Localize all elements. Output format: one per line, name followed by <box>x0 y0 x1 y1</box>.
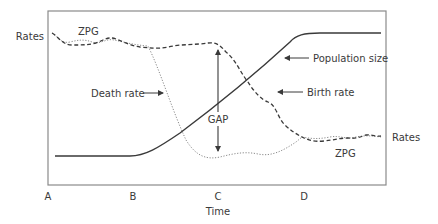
rates-label-right: Rates <box>392 132 420 143</box>
population-size-label: Population size <box>313 53 388 64</box>
axis-tick-b: B <box>130 191 137 202</box>
zpg-label-bottom: ZPG <box>335 148 356 159</box>
demographic-transition-diagram: Rates ZPG Death rate Population size Bir… <box>0 0 438 224</box>
axis-tick-a: A <box>45 191 52 202</box>
rates-label-left: Rates <box>16 31 44 42</box>
birth-rate-label: Birth rate <box>307 87 355 98</box>
axis-tick-d: D <box>300 191 308 202</box>
axis-tick-c: C <box>215 191 222 202</box>
gap-label: GAP <box>208 114 229 125</box>
death-rate-label: Death rate <box>91 88 145 99</box>
zpg-label-top: ZPG <box>78 26 99 37</box>
x-axis-title: Time <box>205 206 230 217</box>
